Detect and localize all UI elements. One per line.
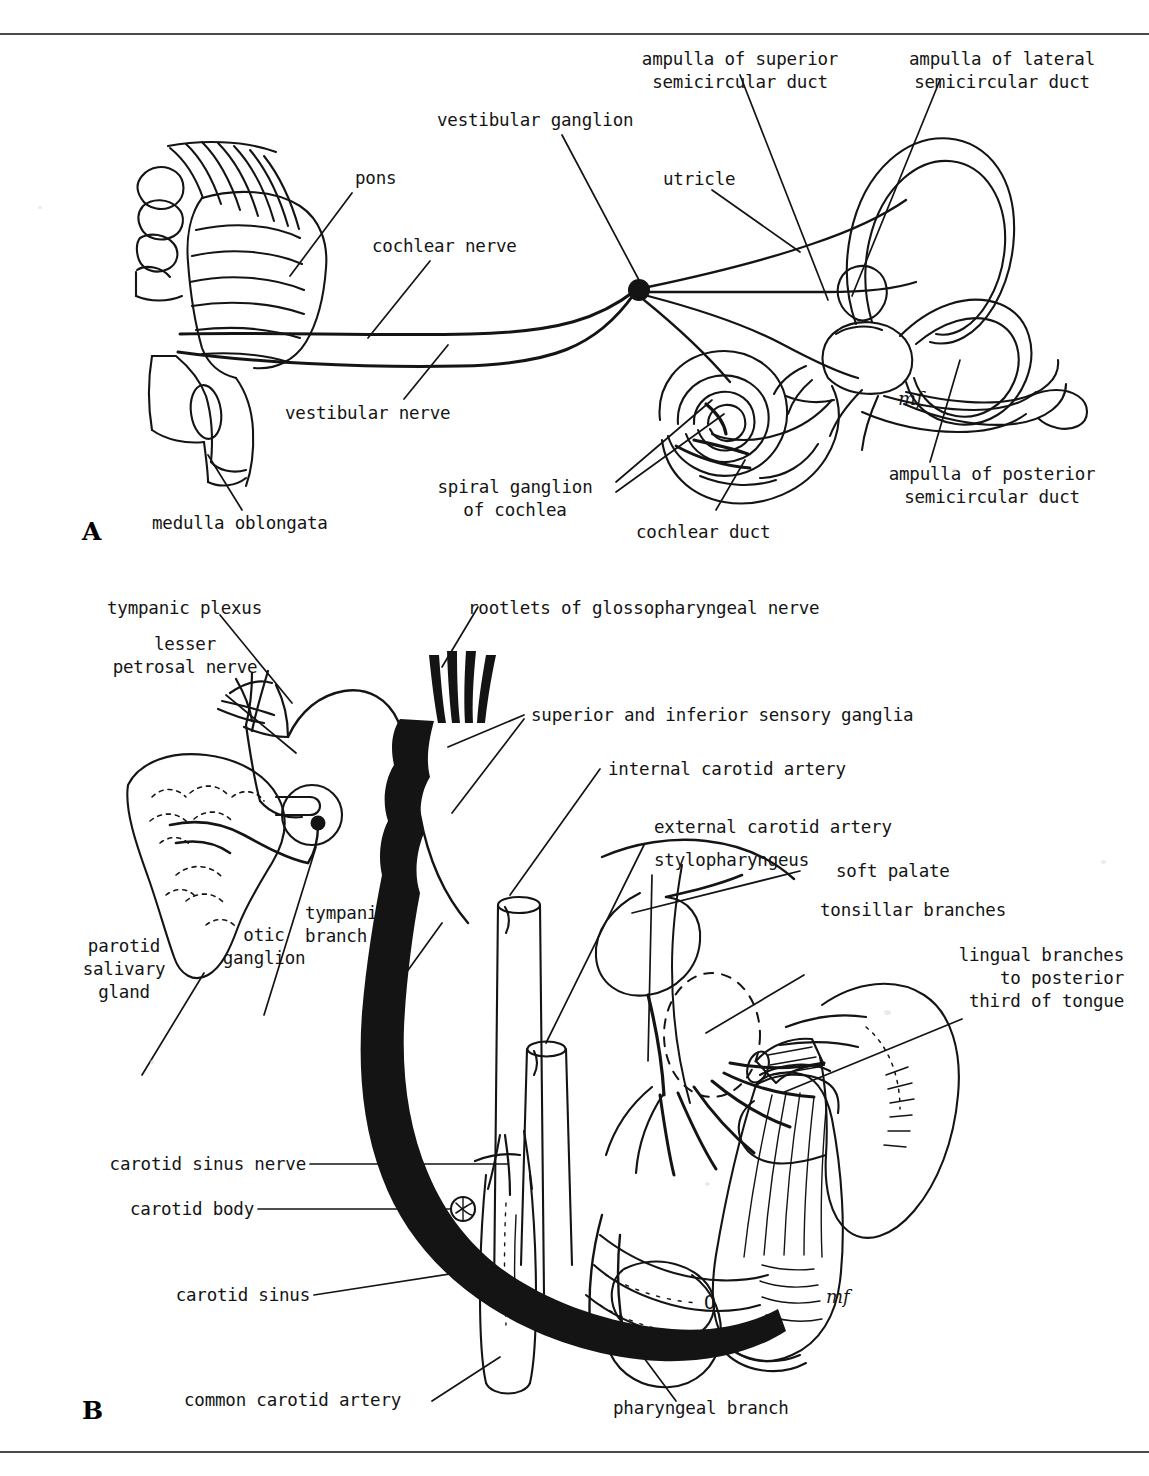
label-spiral-ganglion-line2: of cochlea: [415, 499, 615, 522]
label-ampulla-superior-line2: semicircular duct: [608, 71, 872, 94]
label-lingual-branches-line2: to posterior: [840, 967, 1124, 990]
scan-speck: [38, 206, 42, 209]
anatomical-plate: mf: [0, 0, 1149, 1476]
tonsil-dashed-outline: [664, 973, 760, 1097]
scan-speck: [150, 1060, 154, 1064]
label-common-carotid: common carotid artery: [184, 1389, 401, 1412]
label-lingual-branches-line3: third of tongue: [840, 990, 1124, 1013]
label-pharyngeal-branch: pharyngeal branch: [613, 1397, 789, 1420]
scan-speck: [1101, 860, 1106, 864]
scan-speck: [952, 468, 957, 472]
plate-bottom-rule: [0, 1451, 1149, 1453]
label-spiral-ganglion-line1: spiral ganglion: [415, 476, 615, 499]
vestibular-ganglion-dot: [628, 279, 650, 301]
label-sensory-ganglia: superior and inferior sensory ganglia: [531, 704, 913, 727]
label-carotid-sinus: carotid sinus: [70, 1284, 310, 1307]
carotid-body-group: [451, 1197, 475, 1221]
label-stylopharyngeus: stylopharyngeus: [654, 849, 809, 872]
label-cochlear-duct: cochlear duct: [636, 521, 770, 544]
labyrinth-branches: [644, 200, 916, 382]
label-carotid-sinus-nerve: carotid sinus nerve: [70, 1153, 306, 1176]
label-medulla-oblongata: medulla oblongata: [152, 512, 328, 535]
carotid-sinus-nerve-path: [475, 1154, 520, 1161]
artist-monogram-a: mf: [898, 387, 926, 409]
cochlea-group: [660, 351, 839, 503]
label-cochlear-nerve: cochlear nerve: [372, 235, 517, 258]
label-soft-palate: soft palate: [836, 860, 950, 883]
brainstem-group: [136, 142, 326, 486]
label-tonsillar-branches: tonsillar branches: [820, 899, 1006, 922]
tongue-group: [739, 984, 959, 1238]
label-tympanic-branch-line1: tympanic: [305, 902, 388, 925]
label-lesser-petrosal-line2: petrosal nerve: [90, 656, 280, 679]
label-ampulla-superior-line1: ampulla of superior: [608, 48, 872, 71]
label-vestibular-nerve: vestibular nerve: [285, 402, 450, 425]
internal-carotid-artery: [494, 897, 544, 1303]
label-tympanic-plexus: tympanic plexus: [107, 597, 262, 620]
panel-letter-b: B: [82, 1396, 103, 1425]
foramen-marker: O: [704, 1291, 715, 1313]
label-carotid-body: carotid body: [70, 1198, 254, 1221]
label-parotid-line2: salivary: [34, 958, 214, 981]
tympanic-branch-path: [288, 690, 468, 923]
label-rootlets: rootlets of glossopharyngeal nerve: [468, 597, 819, 620]
label-ampulla-posterior-line1: ampulla of posterior: [858, 463, 1126, 486]
label-parotid-line3: gland: [34, 981, 214, 1004]
label-ampulla-lateral-line1: ampulla of lateral: [870, 48, 1134, 71]
label-vestibular-ganglion: vestibular ganglion: [437, 109, 633, 132]
external-carotid-artery: [521, 1042, 572, 1266]
stylopharyngeus-group: [596, 865, 742, 1103]
scan-speck: [705, 1182, 710, 1186]
label-internal-carotid: internal carotid artery: [608, 758, 846, 781]
label-ampulla-posterior-line2: semicircular duct: [858, 486, 1126, 509]
label-parotid-line1: parotid: [34, 935, 214, 958]
label-ampulla-lateral-line2: semicircular duct: [870, 71, 1134, 94]
label-pons: pons: [355, 167, 396, 190]
scan-speck: [884, 1010, 891, 1015]
label-utricle: utricle: [663, 168, 735, 191]
label-lesser-petrosal-line1: lesser: [90, 633, 280, 656]
artist-monogram-b: mf: [826, 1286, 853, 1307]
label-external-carotid: external carotid artery: [654, 816, 892, 839]
panel-letter-a: A: [82, 517, 101, 546]
label-lingual-branches-line1: lingual branches: [840, 944, 1124, 967]
